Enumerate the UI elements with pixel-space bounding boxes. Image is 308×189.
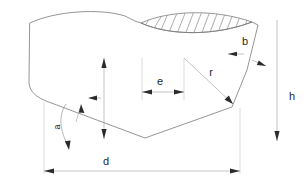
dimension-h-group: h: [274, 20, 295, 141]
body-outline-group: [29, 12, 258, 138]
arrow-right-icon: [142, 90, 152, 95]
dimension-label-r: r: [209, 66, 213, 78]
cross-section-diagram: d h e r: [0, 0, 308, 189]
arrow-left-icon: [228, 52, 237, 56]
dimension-label-b: b: [242, 35, 248, 47]
arrow-down-icon: [101, 129, 106, 139]
body-outline: [29, 12, 258, 138]
dimension-label-a: a: [52, 124, 62, 129]
dimension-d-group: d: [44, 102, 240, 174]
dimension-line-a-upper: [76, 108, 80, 122]
dimension-label-d: d: [103, 155, 109, 167]
dimension-center-vertical-group: [88, 58, 107, 139]
arrow-down-icon: [274, 131, 279, 141]
arrow-left-icon: [230, 168, 240, 173]
dimension-label-h: h: [289, 90, 295, 102]
dimension-r-group: r: [184, 58, 233, 104]
arrow-up-icon: [101, 58, 106, 68]
radius-leader-line-r: [184, 58, 233, 104]
arrow-left-icon: [88, 96, 97, 101]
dimension-label-e: e: [157, 75, 163, 87]
arrow-right-icon: [257, 61, 266, 66]
dimension-e-group: e: [142, 58, 184, 100]
technical-drawing-canvas: d h e r: [0, 0, 308, 189]
arrow-right-icon: [44, 168, 54, 173]
dimension-a-group: a: [52, 104, 84, 150]
arrow-down-icon: [65, 140, 71, 150]
arrow-left-icon: [174, 90, 184, 95]
dimension-b-group: b: [228, 35, 266, 66]
